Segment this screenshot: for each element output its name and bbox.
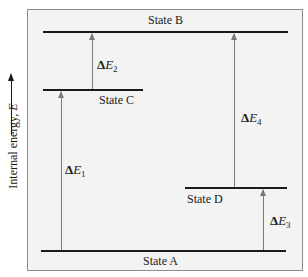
delta-e2-label: ΔE2	[97, 58, 118, 76]
subscript: 1	[81, 169, 86, 179]
level-line-state-d	[185, 187, 287, 189]
y-axis-label: Internal energy, E	[6, 71, 20, 221]
delta-e3-label: ΔE3	[270, 214, 291, 232]
subscript: 4	[257, 117, 262, 127]
state-c-label: State C	[99, 94, 134, 106]
arrow-delta-e2-icon	[92, 34, 93, 89]
energy-var: E	[73, 162, 81, 177]
delta-symbol: Δ	[65, 162, 73, 177]
delta-e1-label: ΔE1	[65, 163, 86, 181]
level-line-state-b	[43, 31, 288, 33]
y-axis-label-text: Internal energy,	[6, 111, 20, 189]
diagram-frame	[27, 9, 303, 271]
delta-symbol: Δ	[241, 110, 249, 125]
y-axis-label-var: E	[6, 103, 20, 110]
delta-e4-label: ΔE4	[241, 111, 262, 129]
y-axis-arrow-icon	[11, 75, 12, 135]
state-b-label: State B	[148, 14, 183, 26]
subscript: 3	[286, 220, 291, 230]
state-d-label: State D	[187, 193, 223, 205]
delta-symbol: Δ	[97, 57, 105, 72]
energy-var: E	[249, 110, 257, 125]
delta-symbol: Δ	[270, 213, 278, 228]
arrow-delta-e3-icon	[263, 190, 264, 250]
energy-var: E	[278, 213, 286, 228]
subscript: 2	[113, 64, 118, 74]
arrow-delta-e4-icon	[234, 34, 235, 187]
arrow-delta-e1-icon	[61, 92, 62, 250]
state-a-label: State A	[143, 255, 178, 267]
energy-var: E	[105, 57, 113, 72]
level-line-state-a	[41, 250, 286, 252]
